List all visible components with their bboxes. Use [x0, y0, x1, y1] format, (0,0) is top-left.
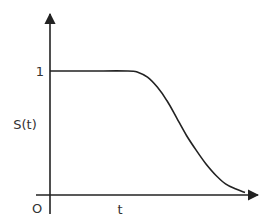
x-axis-label: t [117, 202, 122, 217]
origin-label: O [32, 201, 42, 216]
y-tick-label-1: 1 [36, 64, 44, 79]
survival-curve [50, 71, 245, 193]
y-axis-label: S(t) [13, 117, 37, 132]
survival-chart: 1 S(t) O t [0, 0, 278, 223]
